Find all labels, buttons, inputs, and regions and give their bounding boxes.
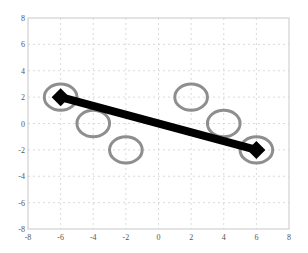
- diamond-marker: [52, 88, 70, 106]
- y-tick-label: -2: [18, 146, 25, 155]
- y-tick-label: -4: [18, 172, 25, 181]
- diamond-marker: [247, 141, 265, 159]
- x-tick-label: 6: [254, 233, 258, 242]
- y-tick-label: 2: [21, 93, 25, 102]
- y-tick-label: 4: [21, 67, 25, 76]
- chart: -8-6-4-202468 -8-6-4-202468: [0, 0, 308, 253]
- y-axis-ticks: -8-6-4-202468: [18, 14, 25, 234]
- x-tick-label: -2: [123, 233, 130, 242]
- y-tick-label: -8: [18, 225, 25, 234]
- x-tick-label: -8: [25, 233, 32, 242]
- x-axis-ticks: -8-6-4-202468: [25, 233, 291, 242]
- y-tick-label: -6: [18, 199, 25, 208]
- x-tick-label: -6: [57, 233, 64, 242]
- y-tick-label: 0: [21, 120, 25, 129]
- x-tick-label: 4: [222, 233, 226, 242]
- x-tick-label: -4: [90, 233, 97, 242]
- y-tick-label: 8: [21, 14, 25, 23]
- x-tick-label: 0: [157, 233, 161, 242]
- x-tick-label: 2: [189, 233, 193, 242]
- y-tick-label: 6: [21, 40, 25, 49]
- x-tick-label: 8: [287, 233, 291, 242]
